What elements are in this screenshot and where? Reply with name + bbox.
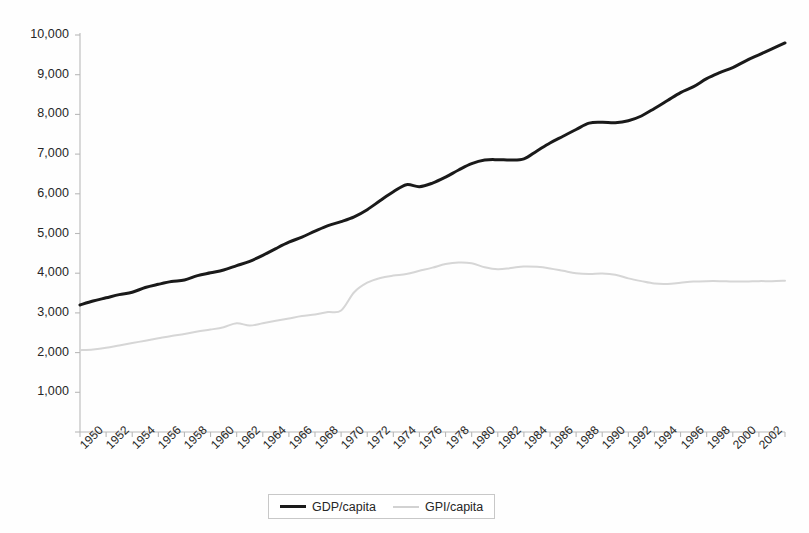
legend-label-gpi: GPI/capita bbox=[425, 500, 483, 514]
chart-plot-area bbox=[0, 0, 809, 533]
series-line-gdp-capita bbox=[80, 43, 785, 305]
y-axis-tick-label: 7,000 bbox=[0, 146, 69, 160]
chart-container: 1,0002,0003,0004,0005,0006,0007,0008,000… bbox=[0, 0, 809, 533]
y-axis-tick-label: 6,000 bbox=[0, 186, 69, 200]
y-axis-tick-label: 8,000 bbox=[0, 106, 69, 120]
series-group bbox=[80, 43, 785, 350]
y-axis-tick-label: 9,000 bbox=[0, 67, 69, 81]
legend-entry-gdp: GDP/capita bbox=[280, 500, 376, 514]
y-axis-tick-label: 1,000 bbox=[0, 384, 69, 398]
y-axis-tick-label: 5,000 bbox=[0, 226, 69, 240]
chart-legend: GDP/capita GPI/capita bbox=[268, 494, 495, 519]
legend-entry-gpi: GPI/capita bbox=[393, 500, 483, 514]
legend-label-gdp: GDP/capita bbox=[312, 500, 376, 514]
legend-swatch-gpi-icon bbox=[393, 506, 419, 508]
series-line-gpi-capita bbox=[80, 262, 785, 350]
legend-swatch-gdp-icon bbox=[280, 505, 306, 508]
y-axis-tick-label: 3,000 bbox=[0, 305, 69, 319]
y-axis-tick-label: 4,000 bbox=[0, 265, 69, 279]
y-axis-tick-label: 10,000 bbox=[0, 27, 69, 41]
y-axis-tick-label: 2,000 bbox=[0, 345, 69, 359]
